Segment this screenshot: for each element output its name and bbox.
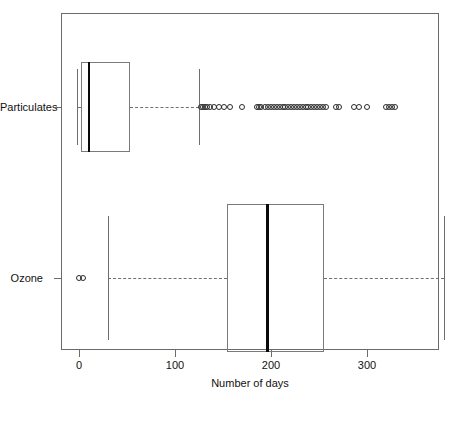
x-tick-100 [175,350,176,357]
whisker-cap-low-particulates [77,69,78,145]
outlier-point [392,104,398,110]
outlier-point [80,275,86,281]
whisker-cap-low-ozone [108,216,109,340]
category-tick-ozone [54,278,61,279]
x-tick-label-0: 0 [76,359,82,371]
boxplot-figure: 0 100 200 300 Number of days Particulate… [0,0,470,424]
median-line-particulates [88,62,91,152]
whisker-line-low-ozone [108,278,227,279]
outlier-point [364,104,370,110]
outlier-point [323,104,329,110]
outlier-point [336,104,342,110]
category-tick-particulates [54,107,61,108]
category-label-particulates: Particulates [0,101,43,113]
median-line-ozone [266,204,269,352]
whisker-line-high-ozone [324,278,444,279]
outlier-point [239,104,245,110]
category-label-ozone: Ozone [0,272,43,284]
whisker-line-high-particulates [130,107,199,108]
x-tick-label-200: 200 [262,359,280,371]
outlier-point [356,104,362,110]
x-tick-label-100: 100 [166,359,184,371]
whisker-cap-high-ozone [444,216,445,340]
x-axis-title: Number of days [211,377,289,389]
x-tick-label-300: 300 [358,359,376,371]
box-ozone [227,204,324,352]
x-tick-300 [367,350,368,357]
outlier-point [227,104,233,110]
x-tick-0 [79,350,80,357]
